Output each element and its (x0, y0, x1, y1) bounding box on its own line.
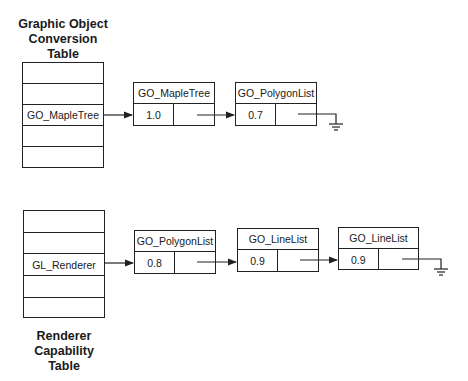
node-name: GO_PolygonList (236, 83, 316, 104)
node-pointer (175, 252, 215, 273)
title-line: Table (4, 359, 124, 374)
node-pointer (174, 104, 214, 125)
title-line: Graphic Object (3, 17, 123, 32)
title-line: Renderer (4, 329, 124, 344)
node-name: GO_LineList (339, 228, 418, 249)
table-row[interactable] (23, 63, 103, 84)
node-name: GO_PolygonList (135, 231, 215, 252)
renderer-capability-table: GL_Renderer (23, 210, 105, 318)
node-value: 0.9 (238, 250, 278, 271)
node-value: 1.0 (134, 104, 174, 125)
node-name: GO_MapleTree (134, 83, 214, 104)
table-row[interactable] (23, 84, 103, 105)
title-line: Table (3, 47, 123, 62)
table-row-go-mapletree[interactable]: GO_MapleTree (23, 105, 103, 126)
list-node-go-polygonlist[interactable]: GO_PolygonList 0.7 (235, 82, 317, 126)
list-node-go-mapletree[interactable]: GO_MapleTree 1.0 (133, 82, 215, 126)
table-row[interactable] (23, 147, 103, 167)
table-row[interactable] (24, 233, 104, 254)
list-node-go-linelist[interactable]: GO_LineList 0.9 (237, 228, 319, 272)
list-node-go-linelist[interactable]: GO_LineList 0.9 (338, 227, 419, 270)
table-row[interactable] (24, 276, 104, 298)
capability-table-title: Renderer Capability Table (4, 329, 124, 374)
table-row[interactable] (23, 126, 103, 147)
node-value: 0.7 (236, 104, 276, 125)
table-row[interactable] (24, 211, 104, 233)
node-name: GO_LineList (238, 229, 318, 250)
graphic-object-conversion-table: GO_MapleTree (22, 62, 104, 168)
node-pointer (278, 250, 318, 271)
table-row[interactable] (24, 298, 104, 319)
node-value: 0.8 (135, 252, 175, 273)
node-pointer (379, 249, 419, 270)
title-line: Capability (4, 344, 124, 359)
list-node-go-polygonlist[interactable]: GO_PolygonList 0.8 (134, 230, 216, 274)
node-value: 0.9 (339, 249, 379, 270)
conversion-table-title: Graphic Object Conversion Table (3, 17, 123, 62)
title-line: Conversion (3, 32, 123, 47)
node-pointer (276, 104, 316, 125)
table-row-gl-renderer[interactable]: GL_Renderer (24, 254, 104, 276)
